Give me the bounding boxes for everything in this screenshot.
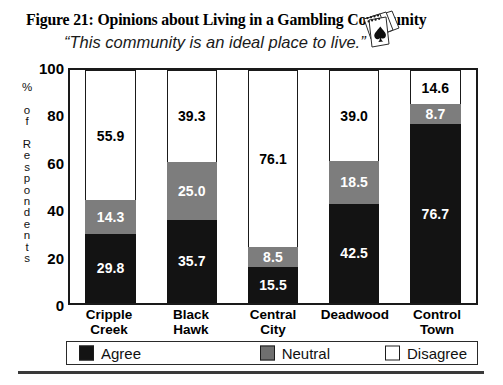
x-axis-category-label-line: Central — [232, 307, 314, 322]
bar-segment-agree[interactable]: 76.7 — [410, 124, 460, 303]
x-axis-category-label-line: Deadwood — [314, 307, 396, 322]
bar-value-label: 14.3 — [97, 209, 125, 225]
bar-value-label: 39.0 — [340, 108, 368, 124]
bar-value-label: 42.5 — [340, 245, 368, 261]
bar-value-label: 29.8 — [97, 260, 125, 276]
chart-legend: AgreeNeutralDisagree — [66, 341, 478, 365]
legend-item-disagree[interactable]: Disagree — [385, 345, 467, 362]
x-axis-category-label: Deadwood — [314, 307, 396, 322]
playing-cards-spade-icon — [352, 6, 408, 54]
bar-value-label: 76.1 — [259, 151, 287, 167]
figure-subtitle: “This community is an ideal place to liv… — [64, 33, 366, 52]
bar-segment-agree[interactable]: 15.5 — [248, 267, 298, 303]
bar-segment-agree[interactable]: 29.8 — [85, 234, 135, 303]
x-axis-category-label: ControlTown — [396, 307, 478, 337]
bar-column[interactable]: 35.725.039.3 — [167, 70, 217, 303]
bar-segment-neutral[interactable]: 25.0 — [167, 162, 217, 220]
legend-swatch-agree — [79, 346, 94, 361]
legend-label: Neutral — [282, 345, 330, 362]
legend-item-agree[interactable]: Agree — [79, 345, 141, 362]
bars-layer: 29.814.355.935.725.039.315.58.576.142.51… — [70, 70, 476, 303]
y-axis-tick-label: 80 — [34, 107, 64, 124]
x-axis-category-label-line: Hawk — [150, 322, 232, 337]
bar-segment-disagree[interactable]: 55.9 — [85, 70, 135, 200]
bar-segment-disagree[interactable]: 14.6 — [410, 70, 460, 104]
x-axis-category-label-line: Cripple — [68, 307, 150, 322]
x-axis-category-label-line: Black — [150, 307, 232, 322]
x-axis-category-label: BlackHawk — [150, 307, 232, 337]
bar-value-label: 18.5 — [340, 174, 368, 190]
x-axis-category-label-line: Town — [396, 322, 478, 337]
legend-swatch-neutral — [260, 346, 275, 361]
bar-segment-disagree[interactable]: 39.3 — [167, 70, 217, 162]
bar-column[interactable]: 42.518.539.0 — [329, 70, 379, 303]
legend-label: Agree — [101, 345, 141, 362]
bar-segment-agree[interactable]: 35.7 — [167, 220, 217, 303]
y-axis-ticks: 020406080100 — [30, 68, 64, 305]
bar-segment-neutral[interactable]: 18.5 — [329, 161, 379, 204]
x-axis-category-label: CentralCity — [232, 307, 314, 337]
bar-value-label: 39.3 — [178, 108, 206, 124]
bar-column[interactable]: 15.58.576.1 — [248, 70, 298, 303]
bar-segment-neutral[interactable]: 8.5 — [248, 247, 298, 267]
bar-column[interactable]: 29.814.355.9 — [85, 70, 135, 303]
y-axis-tick-label: 60 — [34, 154, 64, 171]
y-axis-tick-label: 20 — [34, 249, 64, 266]
bar-value-label: 8.5 — [263, 249, 283, 265]
chart-plot-area: 29.814.355.935.725.039.315.58.576.142.51… — [68, 68, 478, 305]
bar-segment-neutral[interactable]: 8.7 — [410, 104, 460, 124]
bar-value-label: 25.0 — [178, 183, 206, 199]
bar-segment-neutral[interactable]: 14.3 — [85, 200, 135, 233]
legend-swatch-disagree — [385, 346, 400, 361]
y-axis-tick-label: 0 — [34, 297, 64, 314]
x-axis-category-labels: CrippleCreekBlackHawkCentralCityDeadwood… — [68, 307, 478, 339]
y-axis-tick-label: 100 — [34, 60, 64, 77]
bar-value-label: 8.7 — [426, 106, 446, 122]
bar-value-label: 76.7 — [422, 206, 450, 222]
bar-segment-disagree[interactable]: 39.0 — [329, 70, 379, 161]
x-axis-category-label-line: City — [232, 322, 314, 337]
bar-value-label: 15.5 — [259, 277, 287, 293]
legend-item-neutral[interactable]: Neutral — [260, 345, 330, 362]
x-axis-category-label-line: Creek — [68, 322, 150, 337]
x-axis-category-label: CrippleCreek — [68, 307, 150, 337]
bar-segment-agree[interactable]: 42.5 — [329, 204, 379, 303]
legend-label: Disagree — [407, 345, 467, 362]
bar-value-label: 35.7 — [178, 253, 206, 269]
x-axis-category-label-line: Control — [396, 307, 478, 322]
bar-column[interactable]: 76.78.714.6 — [410, 70, 460, 303]
y-axis-tick-label: 40 — [34, 202, 64, 219]
bar-segment-disagree[interactable]: 76.1 — [248, 70, 298, 247]
bottom-divider — [18, 371, 484, 374]
bar-value-label: 14.6 — [422, 80, 450, 96]
bar-value-label: 55.9 — [97, 128, 125, 144]
